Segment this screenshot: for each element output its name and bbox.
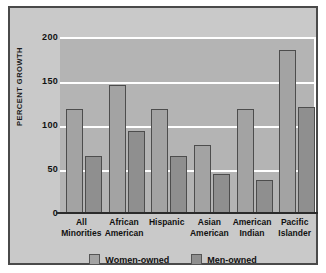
bar-men-owned bbox=[85, 156, 102, 213]
bar-group bbox=[107, 39, 150, 213]
legend-swatch bbox=[89, 254, 100, 265]
bar-women-owned bbox=[66, 109, 83, 213]
bar-women-owned bbox=[109, 85, 126, 213]
chart-frame: PERCENT GROWTH 050100150200 AllMinoritie… bbox=[8, 6, 318, 265]
chart-figure: PERCENT GROWTH 050100150200 AllMinoritie… bbox=[0, 0, 326, 273]
x-tick-label-line: American bbox=[97, 228, 151, 239]
bar-women-owned bbox=[151, 109, 168, 213]
bar-women-owned bbox=[194, 145, 211, 213]
legend-entry: Men-owned bbox=[191, 254, 257, 265]
legend-swatch bbox=[191, 254, 202, 265]
bar-group bbox=[149, 39, 192, 213]
chart-legend: Women-ownedMen-owned bbox=[10, 254, 326, 265]
bar-men-owned bbox=[128, 131, 145, 213]
x-tick-label: PacificIslander bbox=[268, 217, 322, 239]
y-tick-label: 100 bbox=[14, 120, 58, 130]
plot-area bbox=[60, 37, 316, 213]
bar-women-owned bbox=[237, 109, 254, 213]
bar-men-owned bbox=[298, 107, 315, 213]
legend-entry: Women-owned bbox=[89, 254, 169, 265]
bar-group bbox=[277, 39, 320, 213]
x-axis-line bbox=[56, 212, 318, 214]
x-tick-label-line: Pacific bbox=[268, 217, 322, 228]
y-axis-ticks: 050100150200 bbox=[10, 8, 58, 273]
x-tick-label-line: Islander bbox=[268, 228, 322, 239]
y-tick-label: 200 bbox=[14, 32, 58, 42]
bar-men-owned bbox=[213, 174, 230, 213]
x-axis-labels: AllMinoritiesAfricanAmericanHispanicAsia… bbox=[60, 217, 316, 251]
y-tick-label: 150 bbox=[14, 76, 58, 86]
legend-label: Women-owned bbox=[105, 255, 169, 265]
bar-group bbox=[235, 39, 278, 213]
bar-group bbox=[192, 39, 235, 213]
legend-label: Men-owned bbox=[207, 255, 257, 265]
y-tick-label: 50 bbox=[14, 164, 58, 174]
y-tick-label: 0 bbox=[14, 208, 58, 218]
bar-men-owned bbox=[170, 156, 187, 213]
bar-group bbox=[64, 39, 107, 213]
bar-men-owned bbox=[256, 180, 273, 213]
bar-women-owned bbox=[279, 50, 296, 213]
